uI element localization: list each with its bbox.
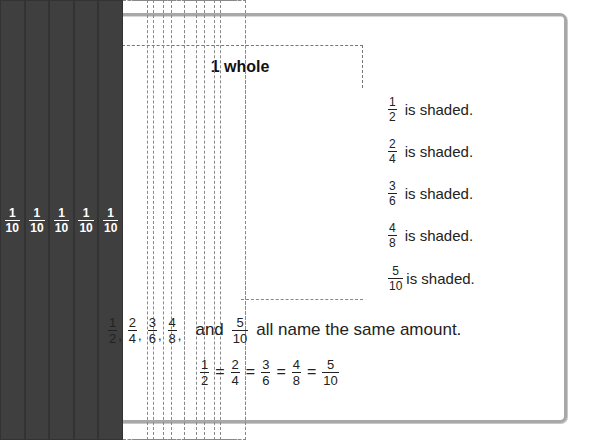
- sentence-fraction-4: 48: [168, 316, 177, 345]
- label-fraction: 510: [388, 265, 403, 292]
- label-text: is shaded.: [406, 270, 474, 287]
- equation-fraction-2: 24: [231, 358, 240, 387]
- unit-fraction: 110: [78, 207, 93, 234]
- sentence-fraction-2: 24: [128, 316, 137, 345]
- comma: ,: [118, 328, 122, 345]
- unshaded-part: [123, 0, 148, 440]
- label-fraction: 36: [388, 180, 397, 207]
- sentence-fraction-5: 510: [232, 316, 248, 345]
- shaded-label: 48is shaded.: [388, 221, 473, 251]
- and-word: and: [195, 320, 223, 340]
- shaded-label: 36is shaded.: [388, 178, 473, 208]
- label-fraction: 48: [388, 222, 397, 249]
- label-text: is shaded.: [405, 185, 473, 202]
- shaded-label: 24is shaded.: [388, 136, 473, 166]
- equivalence-sentence: 12 , 24 , 36 , 48 , and 510 all name the…: [108, 315, 469, 345]
- shaded-part: 110: [98, 0, 123, 440]
- label-text: is shaded.: [405, 143, 473, 160]
- shaded-part: 110: [25, 0, 50, 440]
- unshaded-part: [172, 0, 197, 440]
- equation-fraction-4: 48: [292, 358, 301, 387]
- equation-fraction-3: 36: [261, 358, 270, 387]
- label-fraction: 12: [388, 96, 397, 123]
- equals-sign: =: [276, 363, 285, 381]
- sentence-fraction-3: 36: [148, 316, 157, 345]
- shaded-label: 12is shaded.: [388, 94, 473, 124]
- unit-fraction: 110: [29, 207, 44, 234]
- equals-sign: =: [215, 363, 224, 381]
- shaded-label: 510is shaded.: [388, 264, 475, 294]
- label-text: is shaded.: [405, 101, 473, 118]
- unit-fraction: 110: [5, 207, 20, 234]
- unit-fraction: 110: [103, 207, 118, 234]
- unshaded-part: [148, 0, 173, 440]
- equivalence-equation: 12 = 24 = 36 = 48 = 510: [200, 357, 339, 387]
- sentence-tail: all name the same amount.: [256, 320, 461, 340]
- comma: ,: [178, 328, 182, 345]
- shaded-part: 110: [0, 0, 25, 440]
- equation-fraction-5: 510: [322, 358, 338, 387]
- strip-tenths: [117, 257, 363, 300]
- strip-bottom-edge: [241, 299, 363, 300]
- label-text: is shaded.: [405, 227, 473, 244]
- equals-sign: =: [307, 363, 316, 381]
- equation-fraction-1: 12: [200, 358, 209, 387]
- sentence-fraction-1: 12: [108, 316, 117, 345]
- unit-fraction: 110: [54, 207, 69, 234]
- label-fraction: 24: [388, 138, 397, 165]
- shaded-part: 110: [74, 0, 99, 440]
- comma: ,: [158, 328, 162, 345]
- comma: ,: [138, 328, 142, 345]
- equals-sign: =: [246, 363, 255, 381]
- shaded-part: 110: [49, 0, 74, 440]
